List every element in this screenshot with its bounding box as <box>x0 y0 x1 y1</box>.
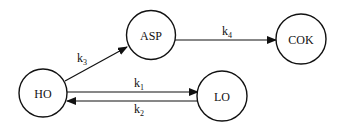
edge-label-k3: k3 <box>77 51 87 67</box>
edge-label-k2: k2 <box>134 102 144 118</box>
node-label-lo: LO <box>214 90 230 104</box>
node-label-cok: COK <box>288 33 314 47</box>
node-label-ho: HO <box>34 87 52 101</box>
node-lo: LO <box>197 71 247 121</box>
edge-label-k1: k1 <box>134 76 144 92</box>
node-asp: ASP <box>127 11 176 60</box>
node-ho: HO <box>19 69 67 117</box>
edge-ho-to-asp <box>65 47 127 81</box>
edge-label-k4: k4 <box>222 24 232 40</box>
node-label-asp: ASP <box>140 29 162 43</box>
node-cok: COK <box>276 14 326 64</box>
reaction-diagram: k3 k4 k1 k2 HO ASP COK LO <box>0 0 343 130</box>
